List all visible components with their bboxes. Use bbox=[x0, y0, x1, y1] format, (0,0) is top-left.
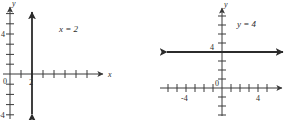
right-y-tick-label-4: 4 bbox=[210, 43, 214, 52]
left-equation-label: x = 2 bbox=[58, 24, 79, 34]
right-x-tick-label-4: 4 bbox=[256, 94, 260, 103]
right-origin-label: 0 bbox=[215, 79, 219, 88]
left-y-tick-label-neg4: -4 bbox=[0, 111, 5, 120]
left-x-axis-label: x bbox=[107, 70, 112, 79]
graph-left-x-equals-2: y x 0 4 -4 2 x = 2 bbox=[0, 0, 145, 120]
right-equation-label: y = 4 bbox=[236, 19, 257, 29]
right-x-tick-label-neg4: -4 bbox=[181, 94, 188, 103]
left-x-tick-label-2: 2 bbox=[29, 78, 33, 87]
left-y-tick-label-4: 4 bbox=[1, 30, 5, 39]
graph-right-y-equals-4: y 0 4 -4 4 y = 4 bbox=[145, 0, 289, 120]
left-origin-label: 0 bbox=[3, 77, 7, 86]
right-y-axis-label: y bbox=[223, 0, 228, 9]
figure-canvas: y x 0 4 -4 2 x = 2 bbox=[0, 0, 289, 120]
left-y-axis-label: y bbox=[11, 0, 16, 8]
